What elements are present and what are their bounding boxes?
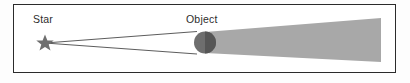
- star-label: Star: [33, 14, 53, 25]
- light-ray-bottom-line: [45, 43, 197, 54]
- shadow-cone-shape: [205, 18, 381, 62]
- object-label: Object: [186, 14, 218, 25]
- star-icon: [36, 35, 53, 51]
- figure-root: Star Object: [0, 0, 410, 83]
- light-ray-top-line: [45, 32, 197, 44]
